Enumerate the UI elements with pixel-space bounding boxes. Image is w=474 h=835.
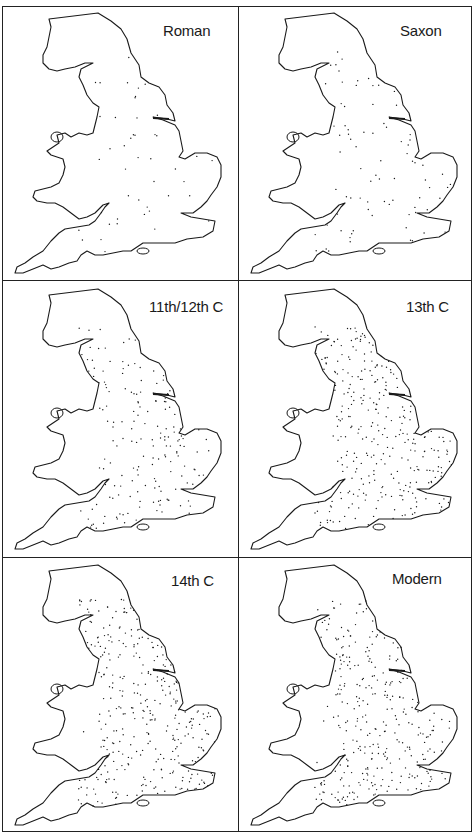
settlement-dot xyxy=(349,416,350,417)
settlement-dot xyxy=(148,671,149,672)
settlement-dot xyxy=(127,513,128,514)
settlement-dot xyxy=(421,783,422,784)
settlement-dot xyxy=(152,439,153,440)
settlement-dot xyxy=(386,416,387,417)
settlement-dot xyxy=(331,345,332,346)
settlement-dot xyxy=(372,85,373,86)
settlement-dot xyxy=(153,502,154,503)
settlement-dot xyxy=(316,250,317,251)
settlement-dot xyxy=(398,741,399,742)
settlement-dot xyxy=(438,466,439,467)
settlement-dot xyxy=(432,730,433,731)
settlement-dot xyxy=(420,789,421,790)
settlement-dot xyxy=(208,450,209,451)
settlement-dot xyxy=(342,405,343,406)
settlement-dot xyxy=(124,769,125,770)
settlement-dot xyxy=(391,474,392,475)
settlement-dot xyxy=(439,437,440,438)
settlement-dot xyxy=(164,681,165,682)
settlement-dot xyxy=(96,528,97,529)
settlement-dot xyxy=(182,777,183,778)
settlement-dot xyxy=(198,475,199,476)
settlement-dot xyxy=(373,438,374,439)
settlement-dot xyxy=(178,739,179,740)
coastline xyxy=(15,565,221,825)
settlement-dot xyxy=(449,727,450,728)
settlement-dot xyxy=(337,799,338,800)
settlement-dot xyxy=(425,179,426,180)
settlement-dot xyxy=(100,329,101,330)
settlement-dot xyxy=(100,656,101,657)
settlement-dot xyxy=(159,504,160,505)
settlement-dot xyxy=(414,512,415,513)
settlement-dot xyxy=(385,725,386,726)
settlement-dot xyxy=(161,685,162,686)
settlement-dot xyxy=(190,778,191,779)
settlement-dot xyxy=(427,736,428,737)
settlement-dot xyxy=(117,793,118,794)
settlement-dot xyxy=(129,338,130,339)
settlement-dot xyxy=(153,445,154,446)
settlement-dot xyxy=(403,697,404,698)
settlement-dot xyxy=(350,668,351,669)
settlement-dot xyxy=(132,480,133,481)
settlement-dot xyxy=(122,695,123,696)
settlement-dot xyxy=(412,775,413,776)
settlement-dot xyxy=(373,455,374,456)
settlement-dot xyxy=(426,771,427,772)
settlement-dot xyxy=(409,747,410,748)
settlement-dot xyxy=(375,793,376,794)
settlement-dot xyxy=(158,501,159,502)
settlement-dot xyxy=(133,736,134,737)
settlement-dot xyxy=(99,159,100,160)
settlement-dot xyxy=(103,523,104,524)
settlement-dot xyxy=(394,178,395,179)
settlement-dot xyxy=(102,409,103,410)
settlement-dot xyxy=(368,661,369,662)
settlement-dot xyxy=(387,709,388,710)
settlement-dot xyxy=(369,342,370,343)
settlement-dot xyxy=(314,787,315,788)
settlement-dot xyxy=(402,678,403,679)
settlement-dot xyxy=(320,637,321,638)
settlement-dot xyxy=(404,442,405,443)
panel-label: Modern xyxy=(392,570,442,587)
settlement-dot xyxy=(181,475,182,476)
settlement-dot xyxy=(341,457,342,458)
settlement-dot xyxy=(146,724,147,725)
isle-of-wight xyxy=(373,248,385,254)
settlement-dot xyxy=(101,212,102,213)
settlement-dot xyxy=(443,498,444,499)
settlement-dot xyxy=(79,599,80,600)
settlement-dot xyxy=(426,470,427,471)
settlement-dot xyxy=(180,505,181,506)
settlement-dot xyxy=(123,643,124,644)
settlement-dot xyxy=(341,58,342,59)
settlement-dot xyxy=(108,391,109,392)
settlement-dot xyxy=(327,520,328,521)
settlement-dot xyxy=(422,456,423,457)
settlement-dot xyxy=(383,721,384,722)
settlement-dot xyxy=(391,420,392,421)
settlement-dot xyxy=(101,774,102,775)
settlement-dot xyxy=(156,761,157,762)
settlement-dot xyxy=(344,772,345,773)
settlement-dot xyxy=(347,328,348,329)
settlement-dot xyxy=(321,799,322,800)
settlement-dot xyxy=(379,631,380,632)
settlement-dot xyxy=(153,370,154,371)
settlement-dot xyxy=(373,794,374,795)
settlement-dot xyxy=(118,656,119,657)
settlement-dot xyxy=(402,742,403,743)
settlement-dot xyxy=(350,197,351,198)
settlement-dot xyxy=(343,785,344,786)
settlement-dot xyxy=(137,401,138,402)
settlement-dot xyxy=(338,715,339,716)
settlement-dot xyxy=(381,356,382,357)
settlement-dot xyxy=(327,706,328,707)
settlement-dot xyxy=(404,514,405,515)
settlement-dot xyxy=(103,746,104,747)
settlement-dot xyxy=(79,780,80,781)
settlement-dot xyxy=(211,160,212,161)
settlement-dot xyxy=(400,647,401,648)
